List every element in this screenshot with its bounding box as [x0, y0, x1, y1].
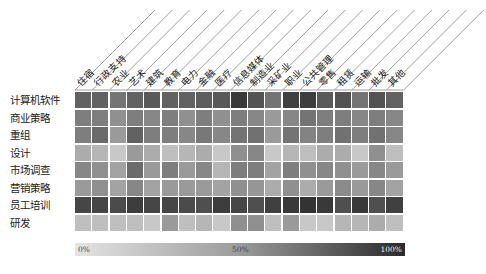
heatmap-cell	[196, 162, 212, 178]
column-label: 住宿	[75, 66, 97, 88]
heatmap-cell	[369, 180, 385, 196]
heatmap-cell	[300, 92, 316, 108]
heatmap-cell	[179, 215, 195, 231]
heatmap-cell	[369, 215, 385, 231]
legend-mid-label: 50%	[232, 243, 249, 256]
heatmap-cell	[144, 162, 160, 178]
row-label: 员工培训	[10, 197, 50, 215]
heatmap-cell	[265, 92, 281, 108]
heatmap-cell	[248, 180, 264, 196]
heatmap-cell	[75, 197, 91, 213]
heatmap-cell	[335, 92, 351, 108]
heatmap-cell	[196, 110, 212, 126]
heatmap-cell	[300, 145, 316, 161]
heatmap-cell	[110, 92, 126, 108]
row-label: 商业策略	[10, 110, 50, 128]
heatmap-cell	[75, 162, 91, 178]
heatmap-cell	[352, 145, 368, 161]
heatmap-cell	[179, 110, 195, 126]
heatmap-cell	[127, 162, 143, 178]
heatmap-cell	[248, 162, 264, 178]
heatmap-cell	[231, 197, 247, 213]
row-label: 研发	[10, 215, 30, 233]
heatmap-cell	[162, 215, 178, 231]
heatmap-cell	[265, 127, 281, 143]
heatmap-cell	[300, 110, 316, 126]
legend-max-label: 100%	[381, 243, 402, 256]
heatmap-cell	[144, 215, 160, 231]
heatmap-cell	[179, 180, 195, 196]
heatmap-cell	[265, 162, 281, 178]
heatmap-cell	[369, 92, 385, 108]
heatmap-cell	[231, 215, 247, 231]
heatmap-cell	[335, 110, 351, 126]
heatmap-cell	[92, 215, 108, 231]
heatmap-cell	[369, 197, 385, 213]
heatmap-cell	[283, 92, 299, 108]
row-label: 市场调查	[10, 162, 50, 180]
heatmap-cell	[386, 110, 402, 126]
heatmap-cell	[92, 92, 108, 108]
heatmap-cell	[196, 145, 212, 161]
heatmap-cell	[386, 180, 402, 196]
row-label: 计算机软件	[10, 92, 60, 110]
heatmap-cell	[196, 197, 212, 213]
heatmap-cell	[144, 127, 160, 143]
heatmap-cell	[317, 162, 333, 178]
heatmap-cell	[162, 127, 178, 143]
heatmap-cell	[386, 162, 402, 178]
heatmap-cell	[127, 110, 143, 126]
row-label: 重组	[10, 127, 30, 145]
heatmap-cell	[75, 127, 91, 143]
heatmap-cell	[248, 215, 264, 231]
heatmap-cell	[92, 162, 108, 178]
heatmap-cell	[196, 92, 212, 108]
heatmap-cell	[248, 110, 264, 126]
heatmap-cell	[213, 92, 229, 108]
heatmap-cell	[110, 197, 126, 213]
heatmap-cell	[386, 127, 402, 143]
heatmap-cell	[248, 145, 264, 161]
heatmap-cell	[179, 127, 195, 143]
heatmap-cell	[386, 197, 402, 213]
heatmap-cell	[231, 92, 247, 108]
heatmap-cell	[75, 215, 91, 231]
heatmap-cell	[386, 92, 402, 108]
heatmap-cell	[213, 197, 229, 213]
heatmap-cell	[179, 145, 195, 161]
heatmap-cell	[92, 145, 108, 161]
heatmap-cell	[179, 162, 195, 178]
heatmap-cell	[75, 180, 91, 196]
heatmap-cell	[127, 197, 143, 213]
heatmap-cell	[127, 215, 143, 231]
heatmap-cell	[352, 127, 368, 143]
heatmap-cell	[231, 145, 247, 161]
heatmap-cell	[283, 162, 299, 178]
heatmap-cell	[162, 145, 178, 161]
heatmap-cell	[317, 127, 333, 143]
heatmap-cell	[352, 162, 368, 178]
heatmap-cell	[127, 127, 143, 143]
heatmap-cell	[162, 197, 178, 213]
heatmap-cell	[352, 180, 368, 196]
heatmap-cell	[317, 215, 333, 231]
heatmap-cell	[231, 162, 247, 178]
heatmap-cell	[92, 127, 108, 143]
heatmap-cell	[213, 145, 229, 161]
heatmap-cell	[144, 197, 160, 213]
row-label: 设计	[10, 145, 30, 163]
heatmap-cell	[110, 215, 126, 231]
heatmap-cell	[144, 110, 160, 126]
heatmap-cell	[300, 180, 316, 196]
heatmap-cell	[386, 215, 402, 231]
heatmap-cell	[144, 92, 160, 108]
heatmap-cell	[196, 127, 212, 143]
heatmap-cell	[283, 145, 299, 161]
heatmap-cell	[75, 110, 91, 126]
heatmap-cell	[352, 110, 368, 126]
heatmap-cell	[335, 197, 351, 213]
heatmap-cell	[162, 180, 178, 196]
heatmap-cell	[110, 110, 126, 126]
heatmap-cell	[317, 180, 333, 196]
heatmap-cell	[75, 92, 91, 108]
